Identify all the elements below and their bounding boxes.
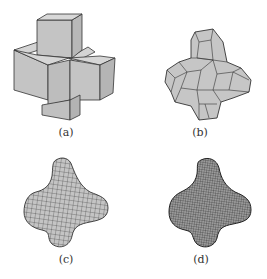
figure: (a) [0, 0, 267, 279]
panel-b-label: (b) [180, 126, 220, 139]
cube-cross-image [0, 0, 133, 140]
panel-a: (a) [0, 0, 133, 140]
panel-d-label: (d) [181, 253, 221, 266]
panel-d: (d) [133, 140, 267, 279]
panel-c-label: (c) [46, 253, 86, 266]
coarse-mesh-image [133, 0, 267, 140]
panel-c: (c) [0, 140, 133, 279]
panel-b: (b) [133, 0, 267, 140]
panel-a-label: (a) [46, 126, 86, 139]
